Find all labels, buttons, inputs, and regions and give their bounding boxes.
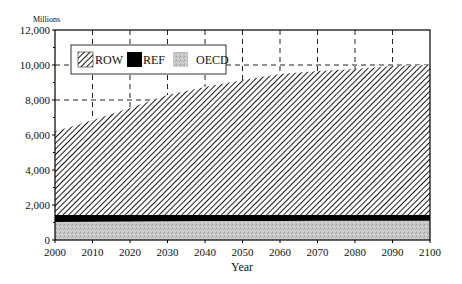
x-tick-label: 2040 [194,246,217,258]
y-tick-label: 6,000 [25,129,50,141]
x-tick-label: 2070 [307,246,330,258]
legend-swatch-row [78,52,93,67]
x-tick-label: 2000 [44,246,67,258]
y-tick-label: 10,000 [20,59,51,71]
x-tick-label: 2010 [82,246,105,258]
y-tick-label: 8,000 [25,94,50,106]
x-tick-label: 2080 [344,246,367,258]
y-tick-label: 4,000 [25,164,50,176]
area-oecd [55,221,430,240]
y-tick-label: 2,000 [25,199,50,211]
y-unit-label: Millions [33,15,60,24]
legend-swatch-oecd [173,52,188,67]
x-tick-label: 2090 [382,246,405,258]
x-tick-label: 2060 [269,246,292,258]
legend-label-row: ROW [95,53,124,67]
legend-swatch-ref [127,52,142,67]
legend-label-oecd: OECD [196,53,229,67]
y-tick-label: 0 [45,234,51,246]
x-tick-label: 2020 [119,246,142,258]
stacked-area-chart: 02,0004,0006,0008,00010,00012,000 200020… [0,0,462,284]
x-tick-label: 2050 [232,246,255,258]
area-layers [55,65,430,240]
x-axis-title: Year [231,260,253,274]
legend-label-ref: REF [143,53,165,67]
y-tick-label: 12,000 [20,24,51,36]
x-tick-label: 2100 [419,246,442,258]
legend: ROW REF OECD [71,45,229,74]
y-axis: 02,0004,0006,0008,00010,00012,000 [20,24,55,246]
x-tick-label: 2030 [157,246,180,258]
x-axis: 2000201020202030204020502060207020802090… [44,240,442,258]
area-row [55,65,430,215]
